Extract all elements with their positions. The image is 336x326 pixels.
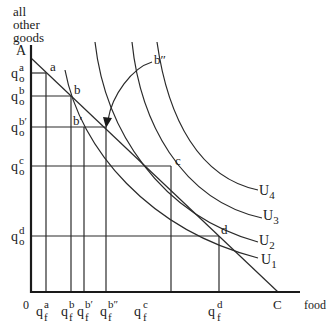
indifference-curve-u1	[65, 70, 258, 258]
y-tick-qo-b: q b o	[11, 84, 25, 107]
x-axis-label: food	[304, 298, 326, 312]
svg-text:b″: b″	[108, 298, 118, 310]
svg-text:q: q	[11, 120, 18, 135]
point-b-prime-label: b′	[73, 113, 83, 128]
indifference-curve-u4	[157, 42, 258, 190]
svg-text:f: f	[85, 311, 89, 323]
curve-u3-label: U3	[263, 208, 279, 226]
svg-text:c: c	[143, 298, 148, 310]
y-tick-qo-d: q d o	[11, 224, 25, 247]
curve-u2-label: U2	[259, 233, 275, 251]
point-b-label: b	[74, 82, 81, 97]
svg-text:q: q	[61, 304, 68, 319]
svg-text:a: a	[44, 298, 49, 310]
svg-text:q: q	[134, 304, 141, 319]
y-tick-qo-b-prime: q b′ o	[11, 115, 27, 138]
svg-text:d: d	[217, 298, 223, 310]
svg-text:f: f	[108, 311, 112, 323]
curve-u4-label: U4	[259, 183, 275, 201]
svg-text:f: f	[143, 311, 147, 323]
x-tick-qf-b: q b f	[61, 298, 75, 323]
svg-text:o: o	[19, 126, 25, 138]
point-b-double-prime-label: b″	[154, 52, 166, 67]
intercept-a-label: A	[16, 43, 27, 58]
y-tick-qo-c: q c o	[11, 154, 25, 177]
x-tick-qf-d: q d f	[208, 298, 223, 323]
arrow-head-icon	[103, 117, 112, 128]
svg-text:o: o	[19, 235, 25, 247]
point-c-label: c	[175, 153, 181, 168]
svg-text:b′: b′	[85, 298, 93, 310]
svg-text:o: o	[19, 165, 25, 177]
svg-text:q: q	[11, 89, 18, 104]
b-double-prime-pointer	[108, 62, 152, 120]
x-tick-qf-a: q a f	[36, 298, 49, 323]
indifference-diagram: all other goods A C food 0 a b b′ b″ c d…	[0, 0, 336, 326]
svg-text:f: f	[69, 311, 73, 323]
svg-text:f: f	[44, 311, 48, 323]
origin-label: 0	[23, 298, 29, 312]
svg-text:b: b	[69, 298, 75, 310]
svg-text:q: q	[100, 304, 107, 319]
svg-text:o: o	[19, 72, 25, 84]
point-a-label: a	[50, 59, 56, 74]
curve-u1-label: U1	[261, 252, 277, 270]
x-tick-qf-b-prime: q b′ f	[77, 298, 93, 323]
y-tick-qo-a: q a o	[11, 61, 25, 84]
svg-text:q: q	[11, 229, 18, 244]
svg-text:q: q	[36, 304, 43, 319]
svg-text:q: q	[208, 304, 215, 319]
intercept-c-label: C	[273, 297, 282, 312]
svg-text:f: f	[217, 311, 221, 323]
x-tick-qf-c: q c f	[134, 298, 148, 323]
svg-text:q: q	[11, 159, 18, 174]
svg-text:o: o	[19, 95, 25, 107]
svg-text:q: q	[11, 66, 18, 81]
indifference-curve-u3	[132, 42, 262, 218]
budget-line	[31, 58, 278, 292]
svg-text:q: q	[77, 304, 84, 319]
x-tick-qf-b-double-prime: q b″ f	[100, 298, 118, 323]
point-d-label: d	[221, 222, 228, 237]
